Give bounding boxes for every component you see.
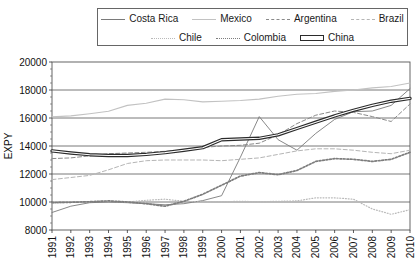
y-tick-label: 16000 — [19, 113, 47, 124]
y-tick-label: 18000 — [19, 85, 47, 96]
x-tick-label: 1992 — [65, 236, 76, 259]
x-tick-label: 1997 — [160, 236, 171, 259]
y-tick-label: 8000 — [25, 225, 48, 236]
x-tick-label: 2010 — [405, 236, 416, 259]
chart-plot: 2000018000160001400012000100008000199119… — [0, 0, 418, 270]
y-tick-label: 20000 — [19, 57, 47, 68]
x-tick-label: 1998 — [178, 236, 189, 259]
x-tick-label: 2000 — [216, 236, 227, 259]
y-tick-label: 12000 — [19, 169, 47, 180]
y-tick-label: 10000 — [19, 197, 47, 208]
x-tick-label: 1993 — [84, 236, 95, 259]
x-tick-label: 2009 — [386, 236, 397, 259]
x-tick-label: 2005 — [310, 236, 321, 259]
y-tick-label: 14000 — [19, 141, 47, 152]
x-tick-label: 2001 — [235, 236, 246, 259]
x-tick-label: 2008 — [367, 236, 378, 259]
x-tick-label: 2006 — [329, 236, 340, 259]
x-tick-label: 1991 — [47, 236, 58, 259]
x-tick-label: 2004 — [291, 236, 302, 259]
expy-line-chart: 2000018000160001400012000100008000199119… — [0, 0, 418, 270]
x-tick-label: 2003 — [273, 236, 284, 259]
x-tick-label: 1999 — [197, 236, 208, 259]
x-tick-label: 1995 — [122, 236, 133, 259]
x-tick-label: 2002 — [254, 236, 265, 259]
y-axis-title: EXPY — [3, 132, 14, 159]
x-tick-label: 1994 — [103, 236, 114, 259]
x-tick-label: 2007 — [348, 236, 359, 259]
x-tick-label: 1996 — [141, 236, 152, 259]
